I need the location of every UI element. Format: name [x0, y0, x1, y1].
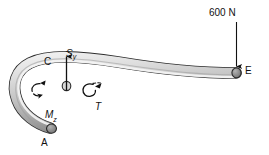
point-label-a: A [41, 138, 48, 148]
endcap-e [232, 68, 241, 78]
load-label-600n: 600 N [209, 8, 236, 18]
shear-force-label-sy: Sy [66, 44, 76, 60]
moment-label-mz: Mz [45, 105, 57, 123]
moment-arrow-mz [32, 80, 46, 95]
point-label-c: C [44, 57, 51, 67]
torque-label-t: T [95, 102, 101, 112]
shear-force-symbol: S [66, 48, 73, 59]
shear-force-subscript: y [73, 53, 77, 60]
torque-arrow-t [83, 83, 102, 97]
pipe-diagram-canvas [0, 0, 269, 155]
endcap-a [47, 124, 57, 133]
moment-subscript: z [53, 116, 57, 123]
point-label-e: E [245, 66, 252, 76]
moment-arrow-mz-head [40, 80, 45, 85]
free-body-diagram-figure: 600 N E C A Sy Mz T [0, 0, 269, 155]
torque-arrow-t-head [95, 83, 102, 89]
